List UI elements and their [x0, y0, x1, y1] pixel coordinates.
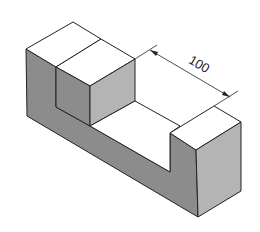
dimension-label: 100	[186, 52, 212, 76]
isometric-block-drawing: 100	[0, 0, 260, 232]
arrowhead-right-icon	[222, 91, 230, 97]
arrowhead-left-icon	[150, 50, 158, 56]
